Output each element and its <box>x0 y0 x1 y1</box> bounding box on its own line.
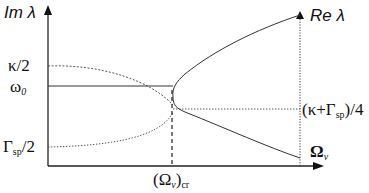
lower-re-branch <box>173 97 300 158</box>
upper-re-branch <box>173 15 300 97</box>
omega0-label: ω0 <box>10 78 26 97</box>
kappa-half-label: κ/2 <box>8 57 30 74</box>
bifurcation-diagram <box>0 0 369 193</box>
omega-axis-arrow-icon <box>313 162 324 170</box>
mean-decay-label: (κ+Γsp)/4 <box>302 101 363 120</box>
re-axis-label: Re λ <box>310 7 345 24</box>
critical-omega-label: (Ων)cr <box>153 171 189 190</box>
lower-im-branch <box>48 112 173 147</box>
im-axis-arrow-icon <box>44 5 52 15</box>
omega-axis-label: Ων <box>310 143 328 162</box>
upper-im-branch <box>48 66 173 105</box>
im-axis-label: Im λ <box>4 4 36 21</box>
gamma-half-label: Γsp/2 <box>3 138 35 157</box>
